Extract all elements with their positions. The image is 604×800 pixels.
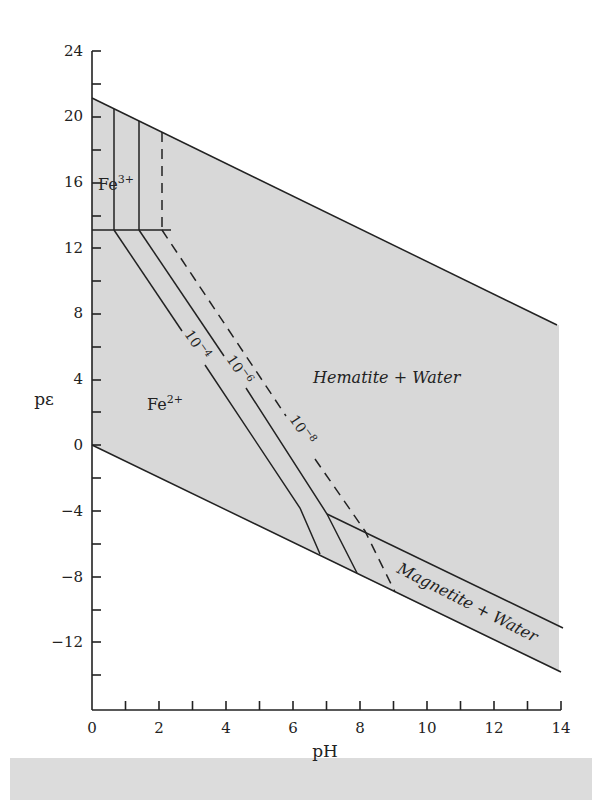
- x-tick-label: 4: [221, 719, 231, 737]
- y-tick-label: 4: [73, 370, 83, 388]
- y-tick-label: −4: [61, 502, 83, 520]
- x-tick-label: 6: [288, 719, 298, 737]
- x-tick-label: 14: [551, 719, 570, 737]
- y-tick-label: 24: [64, 42, 83, 60]
- x-tick-label: 12: [484, 719, 503, 737]
- y-tick-labels: 24 20 16 12 8 4 0 −4 −8 −12: [51, 42, 83, 651]
- x-tick-label: 10: [417, 719, 436, 737]
- eh-ph-diagram: 24 20 16 12 8 4 0 −4 −8 −12 0 2 4 6 8 10…: [0, 0, 604, 800]
- y-tick-label: 12: [64, 239, 83, 257]
- x-tick-label: 8: [355, 719, 365, 737]
- x-tick-label: 2: [154, 719, 164, 737]
- y-tick-label: 0: [73, 436, 83, 454]
- y-tick-label: 16: [64, 173, 83, 191]
- x-tick-labels: 0 2 4 6 8 10 12 14: [87, 719, 570, 737]
- y-axis: [92, 51, 101, 710]
- x-tick-label: 0: [87, 719, 97, 737]
- x-axis: [92, 701, 561, 710]
- y-tick-label: −8: [61, 568, 83, 586]
- y-tick-label: −12: [51, 633, 83, 651]
- x-axis-title: pH: [312, 741, 338, 761]
- y-tick-label: 8: [73, 304, 83, 322]
- y-tick-label: 20: [64, 107, 83, 125]
- region-label-hematite: Hematite + Water: [312, 368, 462, 387]
- y-axis-title: pε: [34, 389, 54, 409]
